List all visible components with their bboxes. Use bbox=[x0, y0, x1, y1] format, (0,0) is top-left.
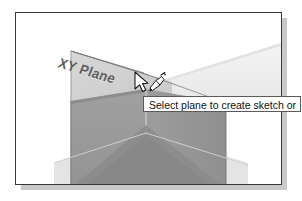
screenshot-root: XY Plane Select plane to bbox=[0, 0, 302, 201]
tooltip-select-plane: Select plane to create sketch or bbox=[143, 96, 301, 112]
